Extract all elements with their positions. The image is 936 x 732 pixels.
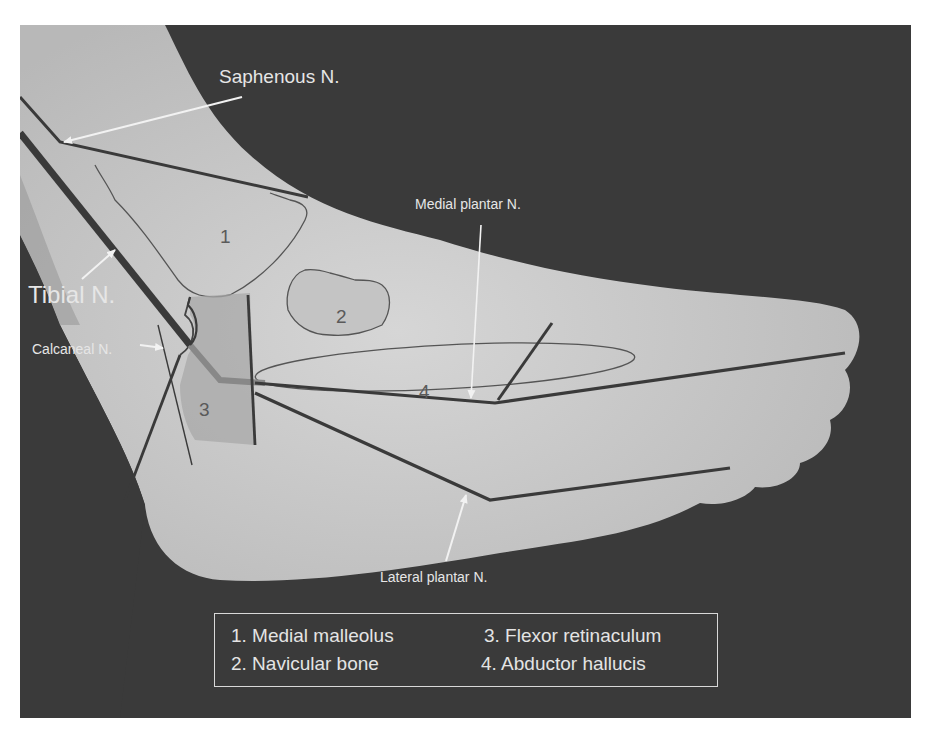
- region-4-number: 4: [419, 382, 430, 401]
- leg-foot-silhouette: [20, 25, 859, 581]
- region-2-number: 2: [336, 307, 347, 326]
- anatomy-figure: Saphenous N. Tibial N. Calcaneal N. Medi…: [20, 25, 911, 718]
- legend-box: 1. Medial malleolus 2. Navicular bone 3.…: [214, 613, 718, 687]
- legend-item-1: 1. Medial malleolus: [231, 626, 394, 645]
- legend-item-3: 3. Flexor retinaculum: [484, 626, 661, 645]
- flexor-retinaculum-region: [180, 293, 255, 445]
- saphenous-label: Saphenous N.: [219, 67, 339, 86]
- region-3-number: 3: [199, 400, 210, 419]
- lateral-plantar-label: Lateral plantar N.: [380, 570, 487, 584]
- legend-item-4: 4. Abductor hallucis: [481, 654, 646, 673]
- medial-plantar-label: Medial plantar N.: [415, 197, 521, 211]
- calcaneal-label: Calcaneal N.: [32, 342, 112, 356]
- region-1-number: 1: [220, 227, 231, 246]
- tibial-label: Tibial N.: [28, 283, 115, 307]
- legend-item-2: 2. Navicular bone: [231, 654, 379, 673]
